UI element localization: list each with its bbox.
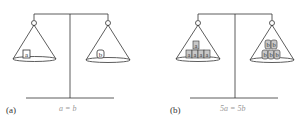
svg-text:a: a [195, 42, 198, 49]
svg-text:b: b [269, 51, 272, 58]
svg-text:a: a [188, 51, 191, 58]
svg-text:b: b [99, 51, 103, 59]
panel-a-equation: a = b [59, 104, 76, 113]
right-pan [86, 58, 130, 63]
svg-text:a: a [200, 51, 203, 58]
panel-b-label: (b) [170, 105, 181, 115]
svg-text:b: b [263, 51, 266, 58]
svg-text:b: b [275, 51, 278, 58]
svg-text:b: b [272, 41, 275, 48]
panel-b-equation: 5a = 5b [220, 104, 245, 113]
balance-diagram: a b a a a a a b b b [0, 0, 299, 124]
left-pan [13, 57, 56, 62]
svg-text:a: a [206, 51, 209, 58]
panel-a-label: (a) [6, 105, 16, 115]
balance-scale-a [13, 14, 130, 98]
svg-text:a: a [194, 51, 197, 58]
svg-text:b: b [266, 41, 269, 48]
